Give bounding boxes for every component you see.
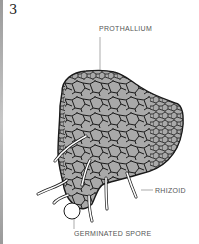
- germinated-spore: [64, 203, 80, 219]
- prothallium-cells: [50, 60, 190, 220]
- prothallium-diagram: [0, 0, 199, 244]
